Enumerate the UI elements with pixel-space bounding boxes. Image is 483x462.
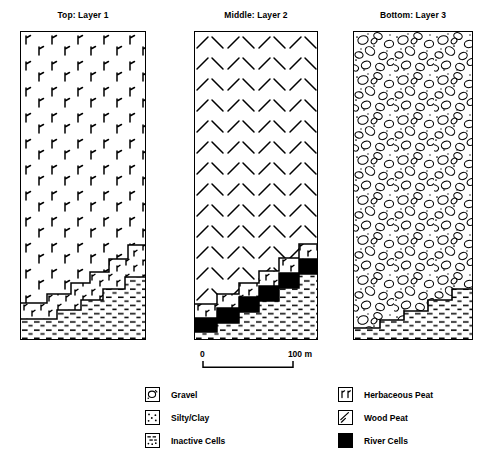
- cross-section-panel-top: [20, 31, 146, 340]
- legend-label-wood-peat: Wood Peat: [364, 413, 408, 423]
- legend-item-inactive-cells: Inactive Cells: [145, 429, 315, 452]
- figure-root: Top: Layer 1 Middle: Layer 2 Bottom: Lay…: [0, 0, 483, 462]
- silty-clay-swatch-icon: [145, 410, 160, 425]
- cross-section-panel-bottom: [353, 31, 473, 340]
- legend-item-river-cells: River Cells: [338, 429, 483, 452]
- river-cells-swatch-icon: [338, 433, 353, 448]
- wood-peat-swatch-icon: [338, 410, 353, 425]
- legend-column-right: Herbaceous Peat Wood Peat River Cells: [338, 383, 483, 452]
- scale-bar: 0 100 m: [200, 350, 312, 370]
- panel-middle-graphic: [195, 32, 318, 340]
- legend-item-herbaceous-peat: Herbaceous Peat: [338, 383, 483, 406]
- legend-item-silty-clay: Silty/Clay: [145, 406, 315, 429]
- legend-label-inactive-cells: Inactive Cells: [171, 436, 225, 446]
- legend-label-river-cells: River Cells: [364, 436, 408, 446]
- legend-label-gravel: Gravel: [171, 390, 197, 400]
- inactive-cells-swatch-icon: [145, 433, 160, 448]
- gravel-swatch-icon: [145, 387, 160, 402]
- legend-label-herbaceous-peat: Herbaceous Peat: [364, 390, 433, 400]
- panel-title-top: Top: Layer 1: [20, 10, 146, 20]
- herbaceous-peat-swatch-icon: [338, 387, 353, 402]
- legend: Gravel Silty/Clay: [145, 383, 483, 453]
- panel-title-bottom: Bottom: Layer 3: [353, 10, 473, 20]
- cross-section-panel-middle: [194, 31, 318, 340]
- legend-label-silty-clay: Silty/Clay: [171, 413, 209, 423]
- legend-item-wood-peat: Wood Peat: [338, 406, 483, 429]
- panel-top-graphic: [21, 32, 146, 340]
- panel-title-middle: Middle: Layer 2: [194, 10, 318, 20]
- legend-item-gravel: Gravel: [145, 383, 315, 406]
- scale-bar-rule: [200, 350, 312, 370]
- legend-column-left: Gravel Silty/Clay: [145, 383, 315, 452]
- panel-bottom-graphic: [354, 32, 473, 340]
